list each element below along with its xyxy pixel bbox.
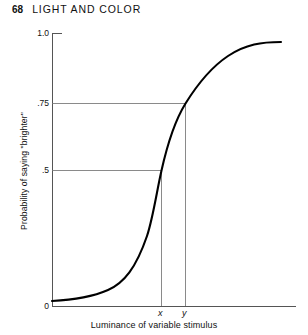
y-axis-title: Probability of saying "brighter" xyxy=(19,71,29,271)
y-tick-label-0: 0 xyxy=(44,302,49,311)
x-axis-title: Luminance of variable stimulus xyxy=(0,320,308,330)
psychometric-curve xyxy=(52,42,281,301)
y-tick-label-0.5: .5 xyxy=(42,166,49,175)
psychometric-function-figure: 1.0 .75 .5 0 x y Probability of saying "… xyxy=(0,0,308,335)
y-tick-label-1.0: 1.0 xyxy=(37,29,49,38)
y-tick-label-0.75: .75 xyxy=(37,99,49,108)
x-tick-label-y: y xyxy=(182,309,187,318)
x-tick-label-x: x xyxy=(158,309,163,318)
